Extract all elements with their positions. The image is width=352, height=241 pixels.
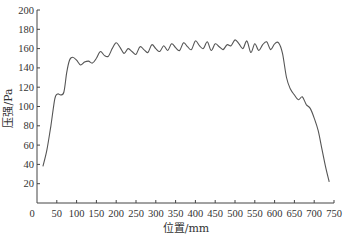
y-tick-label: 60 (24, 140, 35, 151)
x-tick-label: 400 (188, 208, 204, 219)
x-tick-label: 450 (207, 208, 223, 219)
x-axis: 0501001502002503003504004505005506006507… (29, 200, 342, 219)
y-axis-title: 压强/Pa (2, 88, 15, 128)
x-tick-label: 250 (128, 208, 144, 219)
x-tick-label: 700 (306, 208, 322, 219)
y-tick-label: 200 (18, 5, 34, 16)
y-tick-label: 80 (24, 120, 35, 131)
y-tick-label: 140 (18, 62, 34, 73)
y-tick-label: 160 (18, 43, 34, 54)
x-tick-label: 600 (267, 208, 283, 219)
x-tick-label: 0 (29, 208, 34, 219)
x-tick-label: 350 (168, 208, 184, 219)
y-tick-label: 40 (24, 159, 35, 170)
x-tick-label: 550 (247, 208, 263, 219)
x-axis-title: 位置/mm (163, 221, 210, 235)
y-tick-label: 20 (24, 178, 35, 189)
y-tick-label: 100 (18, 101, 34, 112)
x-tick-label: 50 (52, 208, 63, 219)
y-tick-label: 120 (18, 82, 34, 93)
x-tick-label: 100 (69, 208, 85, 219)
x-tick-label: 750 (326, 208, 342, 219)
x-tick-label: 150 (89, 208, 105, 219)
y-axis: 20406080100120140160180200 (18, 5, 40, 204)
x-tick-label: 300 (148, 208, 164, 219)
x-tick-label: 650 (287, 208, 303, 219)
y-tick-label: 180 (18, 24, 34, 35)
pressure-line-chart: 20406080100120140160180200 0501001502002… (0, 0, 352, 241)
x-tick-label: 200 (108, 208, 124, 219)
x-tick-label: 500 (227, 208, 243, 219)
pressure-curve (43, 40, 329, 182)
